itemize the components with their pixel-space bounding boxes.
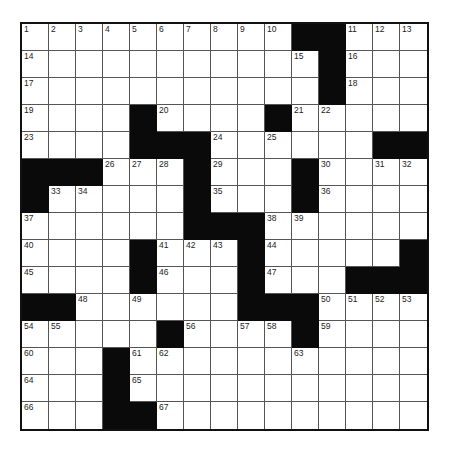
answer-cell[interactable] bbox=[211, 375, 238, 402]
answer-cell[interactable] bbox=[292, 375, 319, 402]
answer-cell[interactable] bbox=[76, 267, 103, 294]
answer-cell[interactable] bbox=[373, 213, 400, 240]
answer-cell[interactable] bbox=[103, 105, 130, 132]
answer-cell[interactable]: 49 bbox=[130, 294, 157, 321]
answer-cell[interactable] bbox=[76, 105, 103, 132]
answer-cell[interactable] bbox=[76, 213, 103, 240]
answer-cell[interactable] bbox=[265, 348, 292, 375]
answer-cell[interactable]: 16 bbox=[346, 51, 373, 78]
answer-cell[interactable] bbox=[238, 402, 265, 429]
answer-cell[interactable] bbox=[49, 375, 76, 402]
answer-cell[interactable]: 7 bbox=[184, 24, 211, 51]
answer-cell[interactable] bbox=[49, 402, 76, 429]
answer-cell[interactable]: 3 bbox=[76, 24, 103, 51]
answer-cell[interactable]: 45 bbox=[22, 267, 49, 294]
answer-cell[interactable] bbox=[103, 294, 130, 321]
answer-cell[interactable]: 61 bbox=[130, 348, 157, 375]
answer-cell[interactable] bbox=[157, 213, 184, 240]
answer-cell[interactable] bbox=[400, 375, 427, 402]
answer-cell[interactable] bbox=[103, 213, 130, 240]
answer-cell[interactable] bbox=[400, 321, 427, 348]
answer-cell[interactable]: 9 bbox=[238, 24, 265, 51]
answer-cell[interactable]: 21 bbox=[292, 105, 319, 132]
answer-cell[interactable] bbox=[346, 132, 373, 159]
answer-cell[interactable] bbox=[319, 375, 346, 402]
answer-cell[interactable] bbox=[211, 321, 238, 348]
answer-cell[interactable] bbox=[184, 348, 211, 375]
answer-cell[interactable] bbox=[265, 375, 292, 402]
answer-cell[interactable] bbox=[319, 213, 346, 240]
answer-cell[interactable] bbox=[103, 132, 130, 159]
answer-cell[interactable]: 39 bbox=[292, 213, 319, 240]
answer-cell[interactable] bbox=[211, 267, 238, 294]
answer-cell[interactable]: 4 bbox=[103, 24, 130, 51]
answer-cell[interactable] bbox=[346, 105, 373, 132]
answer-cell[interactable]: 50 bbox=[319, 294, 346, 321]
answer-cell[interactable]: 33 bbox=[49, 186, 76, 213]
answer-cell[interactable] bbox=[157, 78, 184, 105]
answer-cell[interactable] bbox=[265, 78, 292, 105]
answer-cell[interactable] bbox=[292, 78, 319, 105]
answer-cell[interactable]: 48 bbox=[76, 294, 103, 321]
answer-cell[interactable] bbox=[184, 267, 211, 294]
answer-cell[interactable] bbox=[184, 78, 211, 105]
answer-cell[interactable] bbox=[103, 186, 130, 213]
answer-cell[interactable] bbox=[184, 294, 211, 321]
answer-cell[interactable] bbox=[103, 321, 130, 348]
answer-cell[interactable]: 28 bbox=[157, 159, 184, 186]
answer-cell[interactable] bbox=[346, 159, 373, 186]
answer-cell[interactable] bbox=[373, 321, 400, 348]
answer-cell[interactable]: 64 bbox=[22, 375, 49, 402]
answer-cell[interactable]: 57 bbox=[238, 321, 265, 348]
answer-cell[interactable] bbox=[157, 294, 184, 321]
answer-cell[interactable] bbox=[76, 51, 103, 78]
answer-cell[interactable]: 38 bbox=[265, 213, 292, 240]
answer-cell[interactable] bbox=[76, 348, 103, 375]
answer-cell[interactable] bbox=[373, 240, 400, 267]
answer-cell[interactable] bbox=[292, 267, 319, 294]
answer-cell[interactable]: 25 bbox=[265, 132, 292, 159]
answer-cell[interactable]: 1 bbox=[22, 24, 49, 51]
answer-cell[interactable] bbox=[292, 132, 319, 159]
answer-cell[interactable]: 42 bbox=[184, 240, 211, 267]
answer-cell[interactable] bbox=[373, 348, 400, 375]
answer-cell[interactable] bbox=[157, 51, 184, 78]
answer-cell[interactable]: 18 bbox=[346, 78, 373, 105]
answer-cell[interactable] bbox=[400, 348, 427, 375]
answer-cell[interactable]: 34 bbox=[76, 186, 103, 213]
answer-cell[interactable] bbox=[211, 402, 238, 429]
answer-cell[interactable]: 27 bbox=[130, 159, 157, 186]
answer-cell[interactable]: 56 bbox=[184, 321, 211, 348]
answer-cell[interactable]: 5 bbox=[130, 24, 157, 51]
answer-cell[interactable] bbox=[211, 348, 238, 375]
answer-cell[interactable]: 46 bbox=[157, 267, 184, 294]
answer-cell[interactable]: 44 bbox=[265, 240, 292, 267]
answer-cell[interactable]: 17 bbox=[22, 78, 49, 105]
answer-cell[interactable]: 32 bbox=[400, 159, 427, 186]
answer-cell[interactable]: 12 bbox=[373, 24, 400, 51]
answer-cell[interactable] bbox=[319, 240, 346, 267]
answer-cell[interactable] bbox=[265, 159, 292, 186]
answer-cell[interactable] bbox=[211, 105, 238, 132]
answer-cell[interactable]: 14 bbox=[22, 51, 49, 78]
answer-cell[interactable] bbox=[373, 186, 400, 213]
answer-cell[interactable] bbox=[49, 348, 76, 375]
answer-cell[interactable]: 47 bbox=[265, 267, 292, 294]
answer-cell[interactable] bbox=[373, 78, 400, 105]
answer-cell[interactable] bbox=[400, 186, 427, 213]
answer-cell[interactable]: 29 bbox=[211, 159, 238, 186]
answer-cell[interactable]: 67 bbox=[157, 402, 184, 429]
answer-cell[interactable]: 10 bbox=[265, 24, 292, 51]
answer-cell[interactable]: 66 bbox=[22, 402, 49, 429]
answer-cell[interactable] bbox=[400, 105, 427, 132]
answer-cell[interactable] bbox=[76, 240, 103, 267]
answer-cell[interactable] bbox=[103, 78, 130, 105]
answer-cell[interactable] bbox=[238, 348, 265, 375]
answer-cell[interactable] bbox=[76, 132, 103, 159]
answer-cell[interactable] bbox=[238, 51, 265, 78]
answer-cell[interactable] bbox=[346, 348, 373, 375]
answer-cell[interactable] bbox=[49, 240, 76, 267]
answer-cell[interactable]: 13 bbox=[400, 24, 427, 51]
answer-cell[interactable] bbox=[103, 240, 130, 267]
answer-cell[interactable]: 55 bbox=[49, 321, 76, 348]
